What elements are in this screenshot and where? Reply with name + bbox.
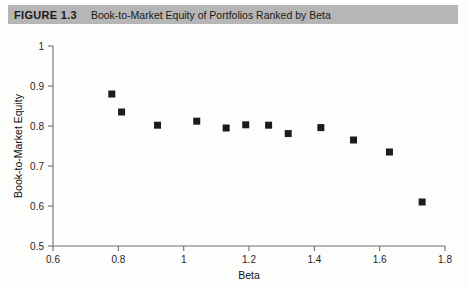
y-tick-label: 0.8 bbox=[30, 121, 44, 132]
y-axis: 0.50.60.70.80.91 bbox=[30, 41, 53, 252]
x-axis-title: Beta bbox=[238, 269, 260, 281]
y-tick-label: 0.7 bbox=[30, 161, 44, 172]
y-axis-title: Book-to-Market Equity bbox=[12, 93, 24, 198]
x-axis: 0.60.811.21.41.61.8 bbox=[46, 246, 452, 265]
figure-page: FIGURE 1.3 Book-to-Market Equity of Port… bbox=[0, 0, 467, 288]
y-tick-label: 0.5 bbox=[30, 241, 44, 252]
x-tick-label: 0.8 bbox=[111, 254, 125, 265]
data-point bbox=[193, 118, 200, 125]
figure-number-label: FIGURE 1.3 bbox=[14, 9, 77, 21]
data-point bbox=[242, 121, 249, 128]
scatter-plot: 0.50.60.70.80.91 0.60.811.21.41.61.8 Bet… bbox=[0, 26, 467, 288]
x-tick-label: 1 bbox=[181, 254, 187, 265]
data-point bbox=[265, 122, 272, 129]
data-point bbox=[350, 137, 357, 144]
x-tick-label: 1.6 bbox=[373, 254, 387, 265]
y-tick-label: 1 bbox=[38, 41, 44, 52]
data-point bbox=[118, 109, 125, 116]
y-tick-label: 0.6 bbox=[30, 201, 44, 212]
data-point bbox=[285, 130, 292, 137]
data-point bbox=[223, 125, 230, 132]
data-point bbox=[386, 149, 393, 156]
x-tick-label: 1.2 bbox=[242, 254, 256, 265]
data-points bbox=[108, 91, 425, 206]
data-point bbox=[108, 91, 115, 98]
chart-area: 0.50.60.70.80.91 0.60.811.21.41.61.8 Bet… bbox=[0, 26, 467, 288]
x-tick-label: 1.8 bbox=[438, 254, 452, 265]
y-tick-label: 0.9 bbox=[30, 81, 44, 92]
data-point bbox=[317, 124, 324, 131]
figure-title-label: Book-to-Market Equity of Portfolios Rank… bbox=[91, 9, 331, 21]
data-point bbox=[154, 122, 161, 129]
x-tick-label: 1.4 bbox=[307, 254, 321, 265]
figure-header-band: FIGURE 1.3 Book-to-Market Equity of Port… bbox=[8, 5, 458, 24]
x-tick-label: 0.6 bbox=[46, 254, 60, 265]
data-point bbox=[419, 199, 426, 206]
